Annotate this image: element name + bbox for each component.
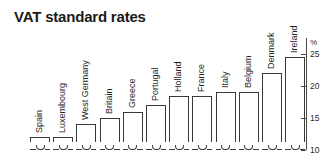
bar-foot-notch <box>30 142 50 150</box>
bar-foot-notch <box>216 142 236 150</box>
y-tick-mark <box>301 118 306 119</box>
bar-foot-notch <box>192 142 212 150</box>
bar-group: West Germany14 <box>76 0 96 164</box>
bar[interactable] <box>216 92 236 142</box>
bar-foot-notch <box>100 142 120 150</box>
bar-foot-notch <box>146 142 166 150</box>
bar-label: France <box>197 64 206 92</box>
bar[interactable] <box>146 105 166 142</box>
bar-label: Denmark <box>267 33 276 70</box>
bar[interactable] <box>262 73 282 142</box>
y-axis-unit-label: % <box>310 39 317 47</box>
bar-group: Spain12 <box>30 0 50 164</box>
bar-label: Italy <box>221 72 230 89</box>
bar-group: Denmark22 <box>262 0 282 164</box>
bar-group: Belgium19 <box>239 0 259 164</box>
bar-foot-notch <box>53 142 73 150</box>
bar-label: Luxembourg <box>58 83 67 133</box>
bar-label: Greece <box>128 78 137 108</box>
bar-foot-notch <box>123 142 143 150</box>
bar-label: Spain <box>35 110 44 133</box>
bar-group: Italy19 <box>216 0 236 164</box>
bar-group: Holland18.5 <box>169 0 189 164</box>
bar-group: Greece16 <box>123 0 143 164</box>
bar-group: Ireland24.5 <box>285 0 305 164</box>
y-tick-label: 15 <box>310 114 319 123</box>
y-tick-label: 25 <box>310 50 319 59</box>
bar-foot-notch <box>169 142 189 150</box>
y-tick-mark <box>301 150 306 151</box>
y-tick-label: 10 <box>310 146 319 155</box>
y-axis-line <box>306 38 307 150</box>
bar-label: Ireland <box>290 26 299 54</box>
bar-label: Britain <box>105 88 114 114</box>
bar-foot-notch <box>285 142 305 150</box>
y-tick-mark <box>301 54 306 55</box>
bar[interactable] <box>100 118 120 142</box>
bar[interactable] <box>285 57 305 142</box>
bar-group: Britain15 <box>100 0 120 164</box>
bar-foot-notch <box>239 142 259 150</box>
plot-area: Spain12Luxembourg12West Germany14Britain… <box>0 0 331 164</box>
y-tick-label: 20 <box>310 82 319 91</box>
bar[interactable] <box>192 96 212 142</box>
bar-group: Luxembourg12 <box>53 0 73 164</box>
bar-group: France18.5 <box>192 0 212 164</box>
bar-label: Portugal <box>151 68 160 102</box>
bar-foot-notch <box>262 142 282 150</box>
bar-label: Belgium <box>244 56 253 89</box>
bar[interactable] <box>76 124 96 142</box>
bar-label: West Germany <box>81 61 90 121</box>
bar[interactable] <box>239 92 259 142</box>
bar-foot-notch <box>76 142 96 150</box>
vat-standard-rates-chart: VAT standard rates Spain12Luxembourg12We… <box>0 0 331 164</box>
bar-label: Holland <box>174 61 183 92</box>
y-tick-mark <box>301 86 306 87</box>
bar[interactable] <box>123 112 143 142</box>
bar[interactable] <box>169 96 189 142</box>
bar-group: Portugal17 <box>146 0 166 164</box>
